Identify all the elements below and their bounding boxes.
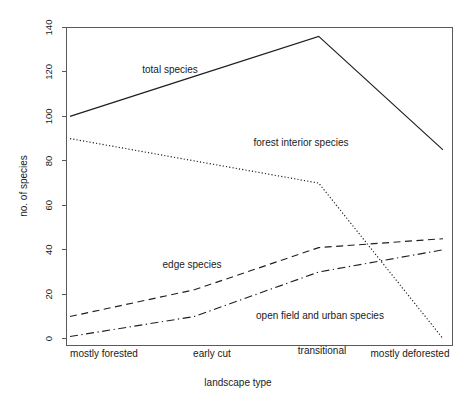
- series-label-forest-interior-species: forest interior species: [253, 137, 348, 148]
- y-tick-label-140: 140: [43, 20, 54, 36]
- x-tick-label-transitional: transitional: [298, 345, 346, 356]
- series-label-total-species: total species: [142, 64, 198, 75]
- x-tick-label-mostly-forested: mostly forested: [70, 348, 138, 359]
- x-axis-tick-labels: mostly forested early cut transitional m…: [70, 345, 449, 359]
- x-tick-label-early-cut: early cut: [193, 348, 231, 359]
- y-axis-ticks: [62, 28, 67, 339]
- line-chart: 140 120 100 80 60 40 20 0 no. of species…: [0, 0, 476, 400]
- y-tick-label-0: 0: [43, 336, 54, 341]
- chart-figure: 140 120 100 80 60 40 20 0 no. of species…: [0, 0, 476, 400]
- y-tick-label-120: 120: [43, 64, 54, 80]
- series-line-edge-species: [70, 239, 443, 317]
- series-line-total-species: [70, 36, 443, 149]
- plot-box: [67, 28, 453, 346]
- y-tick-label-40: 40: [43, 245, 54, 256]
- y-axis-tick-labels: 140 120 100 80 60 40 20 0: [43, 20, 54, 342]
- series-line-forest-interior-species: [70, 139, 443, 339]
- y-axis-title: no. of species: [18, 155, 29, 217]
- series-label-edge-species: edge species: [163, 259, 222, 270]
- x-axis-title: landscape type: [204, 377, 272, 388]
- x-tick-label-mostly-deforested: mostly deforested: [371, 348, 450, 359]
- series-label-open-field-urban-species: open field and urban species: [256, 310, 384, 321]
- y-tick-label-60: 60: [43, 200, 54, 211]
- y-tick-label-20: 20: [43, 289, 54, 300]
- y-tick-label-80: 80: [43, 156, 54, 167]
- plot-frame: [67, 28, 453, 346]
- y-tick-label-100: 100: [43, 108, 54, 124]
- series-line-open-field-urban-species: [70, 250, 443, 337]
